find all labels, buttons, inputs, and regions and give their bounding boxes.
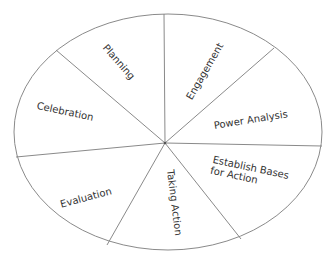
wheel-outline: [14, 14, 322, 250]
wheel-hub: [164, 142, 167, 145]
spoke-left: [16, 143, 165, 157]
spoke-upper-left: [56, 50, 165, 143]
cycle-wheel-diagram: Planning Engagement Power Analysis Estab…: [0, 0, 330, 261]
wheel-graphic: [0, 0, 330, 261]
spoke-top: [164, 14, 165, 143]
spoke-lower-left: [107, 143, 165, 245]
spoke-right: [165, 143, 322, 146]
